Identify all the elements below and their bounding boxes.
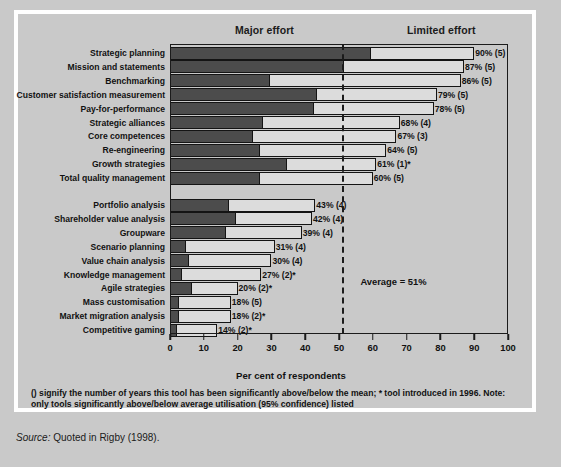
axis-tick (507, 334, 509, 340)
axis-tick (372, 334, 374, 340)
category-label: Benchmarking (105, 77, 165, 86)
bar-segment-major-effort (171, 269, 181, 280)
bar-segment-limited-effort (178, 311, 230, 322)
stacked-bar: 42% (4) (170, 212, 312, 225)
bar-value-label: 90% (5) (475, 49, 505, 58)
axis-tick (271, 334, 273, 340)
bar-value-label: 18% (5) (232, 298, 262, 307)
bar-row: Mission and statements87% (5) (170, 60, 464, 73)
axis-tick-label: 60 (368, 342, 378, 353)
axis-tick (169, 334, 171, 340)
category-label: Core competences (88, 132, 165, 141)
bar-row: Strategic planning90% (5) (170, 47, 474, 60)
bar-segment-limited-effort (316, 89, 436, 100)
bar-segment-major-effort (171, 61, 343, 72)
axis-tick-label: 30 (266, 342, 276, 353)
bar-segment-limited-effort (259, 173, 372, 184)
axis-tick-label: 80 (435, 342, 445, 353)
stacked-bar: 30% (4) (170, 254, 271, 267)
bar-row: Growth strategies61% (1)* (170, 158, 376, 171)
bar-value-label: 79% (5) (438, 90, 468, 99)
bar-value-label: 87% (5) (465, 63, 495, 72)
x-axis: 0102030405060708090100 (170, 334, 508, 368)
major-effort-label: Major effort (235, 24, 294, 36)
axis-tick-label: 10 (199, 342, 209, 353)
category-label: Total quality management (60, 174, 165, 183)
stacked-bar: 64% (5) (170, 144, 386, 157)
axis-tick-label: 70 (401, 342, 411, 353)
limited-effort-label: Limited effort (407, 24, 475, 36)
source-prefix: Source: (16, 432, 50, 443)
bar-segment-limited-effort (252, 131, 395, 142)
axis-tick (440, 334, 442, 340)
category-label: Re-engineering (102, 146, 165, 155)
bar-segment-major-effort (171, 75, 269, 86)
bar-segment-limited-effort (178, 297, 230, 308)
bar-segment-major-effort (171, 255, 188, 266)
bar-segment-limited-effort (259, 145, 385, 156)
bar-value-label: 86% (5) (462, 77, 492, 86)
category-label: Agile strategies (101, 284, 165, 293)
category-label: Value chain analysis (81, 256, 165, 265)
bar-segment-major-effort (171, 200, 228, 211)
bar-value-label: 67% (3) (397, 132, 427, 141)
x-axis-title: Per cent of respondents (236, 370, 346, 381)
category-label: Mission and statements (68, 63, 165, 72)
bar-row: Scenario planning31% (4) (170, 240, 275, 253)
axis-tick (473, 334, 475, 340)
stacked-bar: 43% (4) (170, 199, 315, 212)
bar-segment-limited-effort (286, 159, 375, 170)
stacked-bar: 67% (3) (170, 130, 396, 143)
category-label: Growth strategies (92, 160, 165, 169)
bar-segment-major-effort (171, 227, 225, 238)
bar-segment-major-effort (171, 311, 178, 322)
stacked-bar: 87% (5) (170, 60, 464, 73)
bar-segment-major-effort (171, 213, 235, 224)
bar-segment-limited-effort (343, 61, 463, 72)
bar-value-label: 78% (5) (435, 104, 465, 113)
category-label: Strategic planning (90, 49, 165, 58)
bar-segment-limited-effort (191, 283, 236, 294)
source-line: Source: Quoted in Rigby (1998). (16, 432, 159, 443)
bar-row: Agile strategies20% (2)* (170, 282, 238, 295)
axis-tick-label: 0 (167, 342, 172, 353)
bar-value-label: 60% (5) (374, 174, 404, 183)
bar-segment-limited-effort (262, 117, 399, 128)
stacked-bar: 86% (5) (170, 74, 461, 87)
category-label: Portfolio analysis (93, 201, 165, 210)
bar-row: Strategic alliances68% (4) (170, 116, 400, 129)
category-label: Scenario planning (91, 242, 166, 251)
bar-segment-major-effort (171, 297, 178, 308)
bar-segment-limited-effort (181, 269, 260, 280)
bar-row: Customer satisfaction measurement79% (5) (170, 88, 437, 101)
source-text: Quoted in Rigby (1998). (53, 432, 159, 443)
bar-segment-major-effort (171, 89, 316, 100)
plot-area: Strategic planning90% (5)Mission and sta… (170, 44, 508, 334)
average-annotation: Average = 51% (360, 276, 426, 287)
bar-value-label: 64% (5) (387, 146, 417, 155)
category-label: Knowledge management (64, 270, 165, 279)
stacked-bar: 39% (4) (170, 226, 302, 239)
stacked-bar: 27% (2)* (170, 268, 261, 281)
bar-value-label: 30% (4) (272, 256, 302, 265)
bar-row: Market migration analysis18% (2)* (170, 310, 231, 323)
bar-value-label: 18% (2)* (232, 312, 265, 321)
bar-segment-major-effort (171, 103, 313, 114)
axis-tick-label: 90 (469, 342, 479, 353)
axis-tick (237, 334, 239, 340)
bar-value-label: 27% (2)* (262, 270, 295, 279)
figure-root: Major effort Limited effort Strategic pl… (0, 0, 561, 467)
stacked-bar: 78% (5) (170, 102, 434, 115)
bar-segment-limited-effort (370, 48, 473, 59)
axis-tick-label: 20 (232, 342, 242, 353)
axis-tick-label: 40 (300, 342, 310, 353)
bar-segment-limited-effort (225, 227, 301, 238)
bar-segment-major-effort (171, 131, 252, 142)
axis-tick (304, 334, 306, 340)
average-reference-line (342, 44, 344, 334)
bar-rows: Strategic planning90% (5)Mission and sta… (170, 44, 508, 334)
category-label: Competitive gaming (83, 326, 165, 335)
bar-row: Value chain analysis30% (4) (170, 254, 271, 267)
footnote: () signify the number of years this tool… (31, 388, 519, 411)
axis-tick (406, 334, 408, 340)
